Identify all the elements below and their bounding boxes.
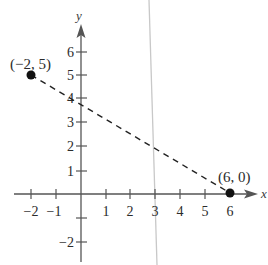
point-6-0 bbox=[226, 189, 235, 198]
dashed-segment bbox=[31, 75, 230, 193]
y-axis-label: y bbox=[74, 8, 82, 23]
coordinate-plot: x y −2 −1 1 2 3 4 5 6 −2 1 2 3 4 bbox=[0, 0, 268, 265]
x-tick-label: 6 bbox=[227, 204, 234, 219]
y-tick-label: 1 bbox=[67, 164, 74, 179]
point-label-6-0: (6, 0) bbox=[218, 169, 251, 186]
x-tick-label: 3 bbox=[152, 204, 159, 219]
x-tick-label: −1 bbox=[47, 204, 62, 219]
y-tick-labels: −2 1 2 3 4 5 6 bbox=[59, 45, 74, 250]
point-label-neg2-5: (−2, 5) bbox=[10, 56, 51, 73]
x-tick-label: 2 bbox=[127, 204, 134, 219]
y-tick-label: 5 bbox=[67, 68, 74, 83]
y-tick-label: 3 bbox=[67, 115, 74, 130]
x-tick-label: 4 bbox=[177, 204, 184, 219]
y-tick-label: 6 bbox=[67, 45, 74, 60]
y-tick-label: 2 bbox=[67, 139, 74, 154]
x-tick-labels: −2 −1 1 2 3 4 5 6 bbox=[24, 204, 234, 219]
x-axis-label: x bbox=[260, 186, 267, 201]
vertical-line-x3 bbox=[149, 0, 157, 265]
x-tick-label: 1 bbox=[103, 204, 110, 219]
x-tick-label: −2 bbox=[24, 204, 39, 219]
y-tick-label: −2 bbox=[59, 235, 74, 250]
x-tick-label: 5 bbox=[202, 204, 209, 219]
